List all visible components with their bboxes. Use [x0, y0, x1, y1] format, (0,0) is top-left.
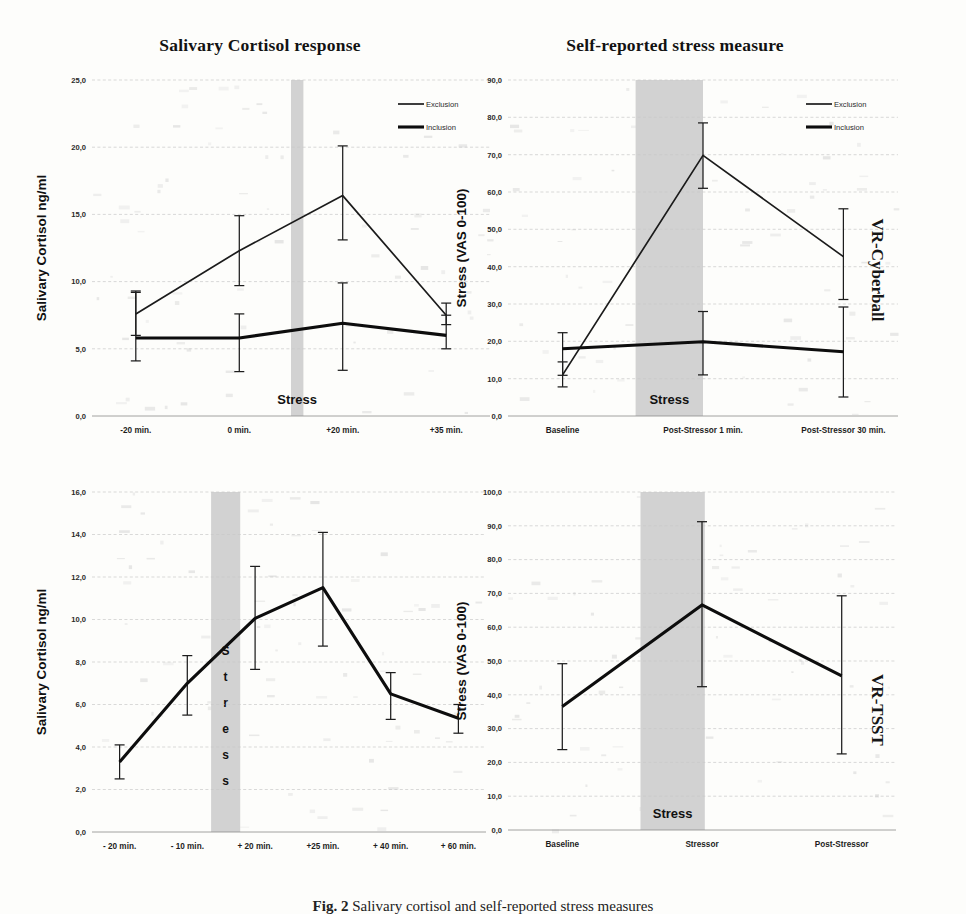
- x-tick-label: 0 min.: [227, 426, 251, 435]
- y-tick-label: 70,0: [487, 151, 502, 160]
- y-tick-label: 5,0: [75, 345, 86, 354]
- stress-band-label: s: [222, 748, 229, 762]
- y-tick-label: 90,0: [487, 522, 502, 531]
- chart-panel-tsst-stress: Stress0,010,020,030,040,050,060,070,080,…: [450, 478, 910, 878]
- chart-cyberball-cortisol: Stress0,05,010,015,020,025,0Salivary Cor…: [30, 62, 500, 462]
- y-axis-title: Salivary Cortisol ng/ml: [34, 175, 49, 321]
- stress-band-label: Stress: [277, 392, 317, 407]
- legend-label-inclusion: Inclusion: [834, 123, 864, 132]
- x-tick-label: + 20 min.: [237, 842, 272, 851]
- stress-band-label: Stress: [649, 392, 689, 407]
- x-tick-label: -20 min.: [120, 426, 151, 435]
- x-tick-label: Baseline: [545, 840, 579, 849]
- caption-text: Salivary cortisol and self-reported stre…: [352, 898, 653, 914]
- figure-root: Salivary Cortisol response Self-reported…: [0, 0, 966, 914]
- series-line-cortisol: [120, 588, 459, 762]
- y-tick-label: 25,0: [71, 76, 86, 85]
- y-tick-label: 100,0: [483, 488, 502, 497]
- y-tick-label: 50,0: [487, 657, 502, 666]
- y-tick-label: 20,0: [487, 758, 502, 767]
- y-tick-label: 30,0: [487, 300, 502, 309]
- x-tick-label: +25 min.: [306, 842, 339, 851]
- y-tick-label: 70,0: [487, 589, 502, 598]
- figure-caption: Fig. 2 Salivary cortisol and self-report…: [0, 898, 966, 914]
- x-axis: BaselineStressorPost-Stressor: [545, 840, 869, 849]
- stress-band: Stress: [277, 80, 317, 416]
- stress-band-label: t: [224, 670, 228, 684]
- row-label-cyberball: VR-Cyberball: [867, 210, 887, 330]
- y-tick-label: 10,0: [487, 375, 502, 384]
- y-tick-label: 6,0: [75, 700, 86, 709]
- x-tick-label: Baseline: [546, 426, 580, 435]
- y-tick-label: 80,0: [487, 113, 502, 122]
- y-tick-label: 0,0: [75, 412, 86, 421]
- chart-tsst-cortisol: Stress0,02,04,06,08,010,012,014,016,0Sal…: [30, 478, 500, 878]
- y-tick-label: 30,0: [487, 724, 502, 733]
- y-tick-label: 50,0: [487, 225, 502, 234]
- y-tick-label: 15,0: [71, 210, 86, 219]
- chart-panel-cyberball-cortisol: Stress0,05,010,015,020,025,0Salivary Cor…: [30, 62, 500, 462]
- stress-band: Stress: [636, 80, 703, 416]
- series-cortisol: [115, 532, 464, 779]
- x-tick-label: - 20 min.: [103, 842, 136, 851]
- x-tick-label: Post-Stressor 30 min.: [801, 426, 885, 435]
- y-tick-label: 80,0: [487, 555, 502, 564]
- y-tick-label: 10,0: [71, 277, 86, 286]
- row-label-tsst: VR-TSST: [867, 650, 887, 770]
- y-tick-label: 4,0: [75, 743, 86, 752]
- y-axis-title: Salivary Cortisol ng/ml: [34, 589, 49, 735]
- y-tick-label: 14,0: [71, 530, 86, 539]
- x-axis: - 20 min.- 10 min.+ 20 min.+25 min.+ 40 …: [103, 842, 476, 851]
- y-tick-label: 12,0: [71, 573, 86, 582]
- y-axis: 0,02,04,06,08,010,012,014,016,0: [71, 488, 486, 837]
- x-tick-label: Post-Stressor: [815, 840, 870, 849]
- y-tick-label: 40,0: [487, 263, 502, 272]
- y-tick-label: 60,0: [487, 623, 502, 632]
- stress-band-label: e: [222, 722, 229, 736]
- y-tick-label: 90,0: [487, 76, 502, 85]
- chart-panel-cyberball-stress: Stress0,010,020,030,040,050,060,070,080,…: [450, 62, 910, 462]
- chart-panel-tsst-cortisol: Stress0,02,04,06,08,010,012,014,016,0Sal…: [30, 478, 500, 878]
- x-tick-label: Stressor: [685, 840, 719, 849]
- y-tick-label: 20,0: [71, 143, 86, 152]
- stress-band-label: r: [223, 696, 228, 710]
- caption-label: Fig. 2: [313, 898, 349, 914]
- legend-label-exclusion: Exclusion: [834, 100, 867, 109]
- y-tick-label: 20,0: [487, 337, 502, 346]
- legend: ExclusionInclusion: [806, 100, 867, 132]
- y-tick-label: 2,0: [75, 785, 86, 794]
- stress-band-label: Stress: [653, 806, 693, 821]
- x-tick-label: Post-Stressor 1 min.: [663, 426, 743, 435]
- stress-band: Stress: [211, 492, 240, 832]
- y-tick-label: 40,0: [487, 691, 502, 700]
- x-tick-label: + 40 min.: [373, 842, 408, 851]
- x-tick-label: - 10 min.: [171, 842, 204, 851]
- y-tick-label: 8,0: [75, 658, 86, 667]
- y-axis-title: Stress (VAS 0-100): [454, 601, 469, 720]
- y-tick-label: 16,0: [71, 488, 86, 497]
- x-tick-label: +20 min.: [326, 426, 359, 435]
- x-axis: BaselinePost-Stressor 1 min.Post-Stresso…: [546, 426, 886, 435]
- y-tick-label: 0,0: [75, 828, 86, 837]
- column-title-left: Salivary Cortisol response: [20, 35, 500, 56]
- chart-cyberball-stress: Stress0,010,020,030,040,050,060,070,080,…: [450, 62, 910, 462]
- stress-band-label: s: [222, 774, 229, 788]
- chart-tsst-stress: Stress0,010,020,030,040,050,060,070,080,…: [450, 478, 910, 878]
- y-tick-label: 0,0: [491, 412, 502, 421]
- column-title-right: Self-reported stress measure: [440, 35, 910, 56]
- y-tick-label: 60,0: [487, 188, 502, 197]
- y-tick-label: 0,0: [491, 826, 502, 835]
- y-axis-title: Stress (VAS 0-100): [454, 188, 469, 307]
- y-tick-label: 10,0: [71, 615, 86, 624]
- y-tick-label: 10,0: [487, 792, 502, 801]
- x-axis: -20 min.0 min.+20 min.+35 min.: [120, 426, 462, 435]
